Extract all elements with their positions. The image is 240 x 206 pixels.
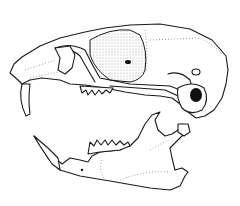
mandible xyxy=(34,112,190,190)
upper-molars xyxy=(80,86,113,95)
auditory-meatus xyxy=(190,88,202,102)
lower-incisor xyxy=(34,136,60,170)
upper-incisor xyxy=(21,84,30,116)
skull-illustration xyxy=(0,0,240,206)
mental-foramen xyxy=(81,169,83,171)
cranium xyxy=(10,24,228,118)
